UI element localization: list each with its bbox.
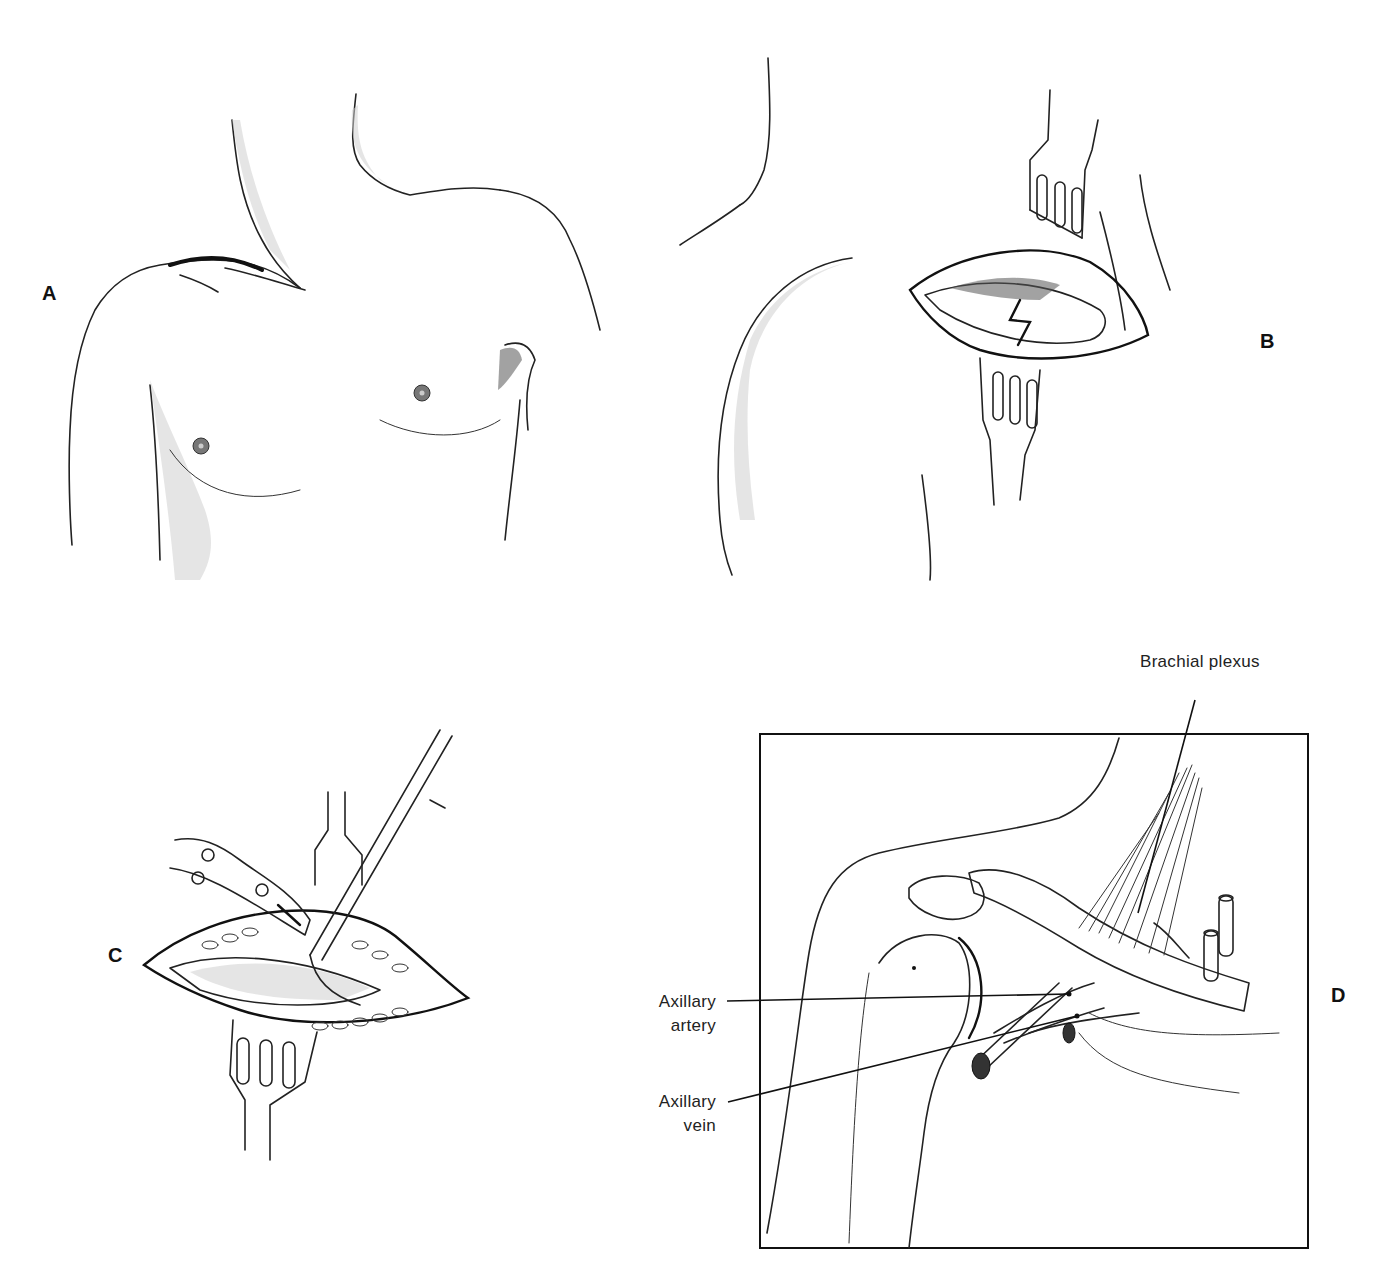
label-axillary-artery: Axillary artery	[612, 990, 716, 1038]
panel-letter-c: C	[108, 944, 122, 967]
label-brachial-plexus: Brachial plexus	[1140, 650, 1260, 674]
label-axillary-artery-line1: Axillary	[612, 990, 716, 1014]
label-axillary-vein-line2: vein	[612, 1114, 716, 1138]
panel-c: C	[100, 720, 520, 1170]
panel-letter-a: A	[42, 282, 56, 305]
label-axillary-vein: Axillary vein	[612, 1090, 716, 1138]
label-axillary-vein-line1: Axillary	[612, 1090, 716, 1114]
panel-letter-b: B	[1260, 330, 1274, 353]
panel-d: D	[759, 733, 1309, 1249]
panel-letter-d: D	[1331, 984, 1345, 1007]
panel-b: B	[700, 0, 1385, 580]
chest-illustration	[0, 0, 700, 580]
shoulder-incision-illustration	[700, 0, 1385, 580]
instrument-incision-illustration	[100, 720, 520, 1170]
label-axillary-artery-line2: artery	[612, 1014, 716, 1038]
panel-a: A	[0, 0, 700, 580]
shoulder-anatomy-illustration	[759, 733, 1309, 1249]
